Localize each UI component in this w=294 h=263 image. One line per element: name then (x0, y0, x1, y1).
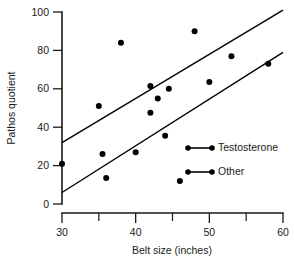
x-axis-group: 30405060 (56, 213, 289, 238)
x-tick-label: 30 (56, 226, 68, 238)
data-point (96, 103, 102, 109)
data-point (147, 83, 153, 89)
data-point (147, 110, 153, 116)
y-tick-label: 100 (31, 6, 49, 18)
chart-legend: TestosteroneOther (185, 141, 278, 177)
legend-label: Other (218, 165, 245, 177)
data-point (265, 61, 271, 67)
x-axis-title: Belt size (inches) (132, 244, 212, 256)
y-tick-labels: 020406080100 (31, 6, 49, 210)
data-point (155, 95, 161, 101)
data-point (206, 79, 212, 85)
scatter-plot-figure: 020406080100 30405060 TestosteroneOther … (0, 0, 294, 263)
plot-canvas: 020406080100 30405060 TestosteroneOther … (0, 0, 294, 263)
x-tick-label: 50 (203, 226, 215, 238)
data-point (162, 133, 168, 139)
data-point (59, 161, 65, 167)
y-axis-title: Pathos quotient (5, 71, 17, 144)
legend-label: Testosterone (218, 141, 278, 153)
data-points-group (59, 28, 271, 184)
data-point (166, 86, 172, 92)
legend-marker-end-1 (209, 169, 215, 175)
x-tick-marks-minor (99, 213, 246, 221)
legend-marker-start-1 (185, 169, 191, 175)
y-tick-marks (53, 12, 62, 204)
x-tick-labels: 30405060 (56, 226, 289, 238)
legend-marker-start-0 (185, 145, 191, 151)
data-point (228, 53, 234, 59)
y-tick-label: 80 (37, 44, 49, 56)
y-tick-label: 60 (37, 82, 49, 94)
regression-lines (62, 10, 283, 192)
data-point (118, 40, 124, 46)
x-tick-label: 40 (130, 226, 142, 238)
y-tick-label: 0 (43, 198, 49, 210)
data-point (177, 178, 183, 184)
data-point (192, 28, 198, 34)
data-point (103, 175, 109, 181)
data-point (100, 151, 106, 157)
x-tick-label: 60 (277, 226, 289, 238)
legend-marker-end-0 (209, 145, 215, 151)
data-point (133, 149, 139, 155)
y-tick-label: 40 (37, 121, 49, 133)
y-tick-label: 20 (37, 159, 49, 171)
y-axis-group: 020406080100 (31, 6, 62, 210)
